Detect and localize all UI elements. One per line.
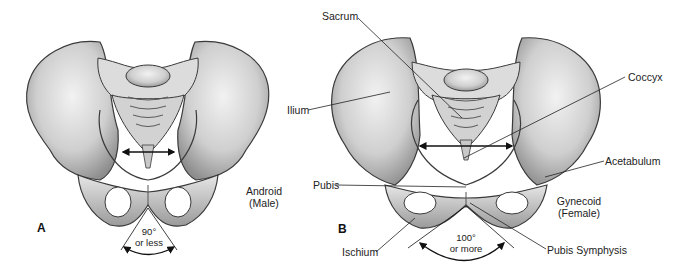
gynecoid-subpubic-angle-label: 100° or more bbox=[446, 232, 486, 254]
android-type-label: Android (Male) bbox=[242, 185, 286, 209]
ilium-label: Ilium bbox=[287, 104, 309, 116]
pubis-label: Pubis bbox=[313, 179, 339, 191]
ischium-label: Ischium bbox=[342, 246, 378, 258]
panel-b-letter: B bbox=[338, 222, 347, 236]
panel-a-letter: A bbox=[37, 221, 46, 235]
sacrum-label: Sacrum bbox=[322, 10, 358, 22]
android-pelvis bbox=[27, 41, 269, 254]
acetabulum-label: Acetabulum bbox=[605, 155, 660, 167]
gynecoid-pelvis bbox=[332, 38, 601, 261]
android-subpubic-angle-label: 90° or less bbox=[132, 226, 166, 248]
pubis-symphysis-label: Pubis Symphysis bbox=[547, 244, 627, 256]
gynecoid-type-label: Gynecoid (Female) bbox=[555, 195, 603, 219]
pelvis-comparison-diagram bbox=[0, 0, 681, 279]
coccyx-label: Coccyx bbox=[628, 71, 662, 83]
